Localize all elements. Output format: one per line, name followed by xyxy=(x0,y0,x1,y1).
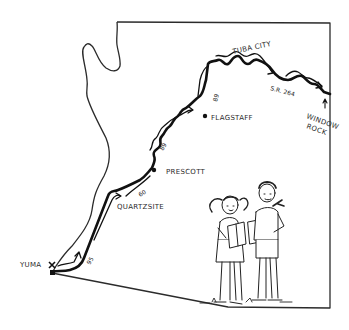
label-yuma: YUMA xyxy=(19,261,41,269)
open-map-left xyxy=(228,222,246,248)
prescott-marker xyxy=(152,168,156,172)
label-quartzsite: QUARTZSITE xyxy=(117,203,164,211)
route-arrow-line xyxy=(150,110,192,150)
main-route xyxy=(52,51,330,272)
label-flagstaff: FLAGSTAFF xyxy=(211,114,253,122)
state-outline xyxy=(52,22,330,308)
yuma-x-mark xyxy=(49,262,55,268)
route-95-label: 95 xyxy=(85,255,95,265)
arrowhead-icon xyxy=(323,99,327,108)
route-60-label: 60 xyxy=(137,188,147,198)
colorado-river-border xyxy=(52,22,120,273)
route-sr264-label: S.R. 264 xyxy=(270,84,296,97)
yuma-marker xyxy=(50,270,55,275)
flagstaff-marker xyxy=(203,114,207,118)
girl-figure xyxy=(210,196,248,304)
label-prescott: PRESCOTT xyxy=(166,168,206,176)
arizona-route-map: YUMA QUARTZSITE PRESCOTT FLAGSTAFF TUBA … xyxy=(0,0,349,330)
city-labels: YUMA QUARTZSITE PRESCOTT FLAGSTAFF TUBA … xyxy=(19,40,340,269)
children-illustration xyxy=(200,182,292,304)
state-border-north-east xyxy=(52,22,330,308)
boy-figure xyxy=(252,182,284,300)
label-tuba-city: TUBA CITY xyxy=(231,40,273,56)
route-89-label-north: 89 xyxy=(211,93,220,102)
